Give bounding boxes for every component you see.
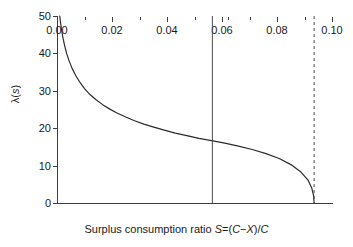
x-tick-0.10 <box>332 17 333 22</box>
x-axis-line <box>57 203 333 204</box>
x-axis-title-sym-x: X <box>247 223 254 235</box>
x-axis-title: Surplus consumption ratio S=(C−X)/C <box>0 223 353 235</box>
y-tick-label-10: 10 <box>39 160 51 171</box>
y-axis-title-lambda: λ( <box>9 94 21 103</box>
y-tick-label-30: 30 <box>39 85 51 96</box>
x-axis-title-eq: =( <box>222 223 232 235</box>
chart-canvas <box>57 16 332 203</box>
chart-figure: λ(s) 0 10 20 30 40 50 0.00 0.02 0.04 0.0… <box>0 0 353 247</box>
lambda-curve <box>60 16 314 203</box>
x-axis-title-sym-c2: C <box>261 223 269 235</box>
plot-area: 0 10 20 30 40 50 0.00 0.02 0.04 0.06 0.0… <box>57 16 332 203</box>
y-tick-label-20: 20 <box>39 123 51 134</box>
x-axis-title-prefix: Surplus consumption ratio <box>84 223 214 235</box>
x-axis-title-close: )/ <box>254 223 261 235</box>
y-tick-label-40: 40 <box>39 48 51 59</box>
y-tick-0 <box>53 203 57 204</box>
y-axis-title-sym-s: s <box>9 89 21 95</box>
x-axis-title-sym-c1: C <box>232 223 240 235</box>
y-tick-label-0: 0 <box>45 198 51 209</box>
y-axis-title-close: ) <box>9 85 21 89</box>
x-axis-title-sym-s: S <box>215 223 222 235</box>
y-tick-label-50: 50 <box>39 11 51 22</box>
y-axis-title: λ(s) <box>9 85 21 103</box>
